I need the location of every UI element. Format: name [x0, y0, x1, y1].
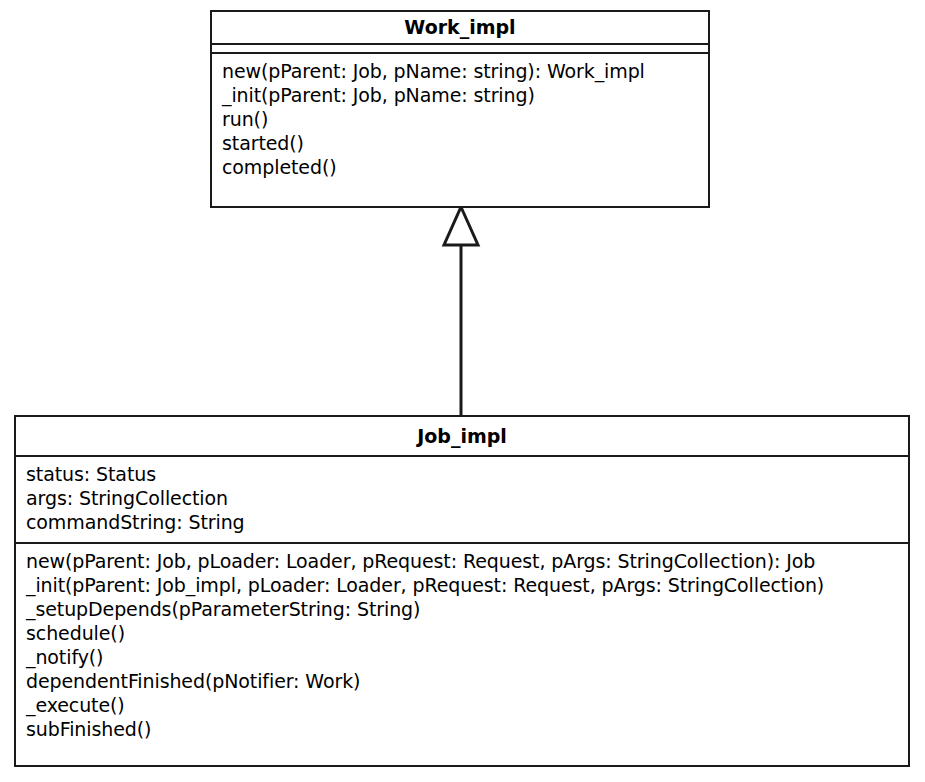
methods-compartment-job-impl: new(pParent: Job, pLoader: Loader, pRequ… [16, 544, 908, 747]
method-item: started() [222, 131, 708, 155]
method-item: run() [222, 107, 708, 131]
method-item: schedule() [26, 621, 908, 645]
class-name-work-impl: Work_impl [212, 12, 708, 45]
method-item: _execute() [26, 693, 908, 717]
hollow-triangle-arrowhead [444, 207, 478, 245]
class-box-job-impl[interactable]: Job_impl status: Status args: StringColl… [14, 415, 910, 767]
attribute-item: args: StringCollection [26, 486, 908, 510]
method-item: completed() [222, 155, 708, 179]
methods-compartment-work-impl: new(pParent: Job, pName: string): Work_i… [212, 54, 708, 185]
method-item: new(pParent: Job, pName: string): Work_i… [222, 59, 708, 83]
method-item: _setupDepends(pParameterString: String) [26, 597, 908, 621]
method-item: _init(pParent: Job, pName: string) [222, 83, 708, 107]
class-box-work-impl[interactable]: Work_impl new(pParent: Job, pName: strin… [210, 10, 710, 208]
attribute-item: commandString: String [26, 510, 908, 534]
class-name-job-impl: Job_impl [16, 417, 908, 457]
uml-class-diagram: Work_impl new(pParent: Job, pName: strin… [0, 0, 925, 782]
attributes-compartment-job-impl: status: Status args: StringCollection co… [16, 457, 908, 544]
method-item: dependentFinished(pNotifier: Work) [26, 669, 908, 693]
attribute-item: status: Status [26, 462, 908, 486]
attributes-compartment-work-impl [212, 45, 708, 54]
method-item: _notify() [26, 645, 908, 669]
method-item: subFinished() [26, 717, 908, 741]
method-item: _init(pParent: Job_impl, pLoader: Loader… [26, 573, 908, 597]
method-item: new(pParent: Job, pLoader: Loader, pRequ… [26, 549, 908, 573]
